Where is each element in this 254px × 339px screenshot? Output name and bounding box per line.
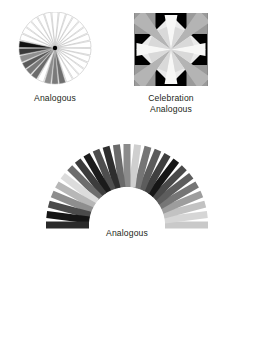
analogous-fan-caption: Analogous [77, 228, 177, 239]
page-canvas: Analogous Celebration Analogous Analogou… [0, 0, 254, 339]
celebration-block-caption-line2: Analogous [126, 104, 216, 115]
color-wheel-caption: Analogous [5, 93, 105, 104]
analogous-fan-svg [18, 138, 236, 233]
celebration-block-svg [134, 13, 208, 86]
analogous-fan-caption-line1: Analogous [77, 228, 177, 239]
celebration-block-caption-line1: Celebration [126, 93, 216, 104]
analogous-fan-figure [18, 138, 236, 233]
color-wheel-caption-line1: Analogous [5, 93, 105, 104]
color-wheel-hub [53, 46, 57, 50]
celebration-block-figure [134, 13, 208, 86]
celebration-block-caption: Celebration Analogous [126, 93, 216, 114]
color-wheel-svg [18, 12, 92, 86]
color-wheel-figure [18, 12, 92, 86]
